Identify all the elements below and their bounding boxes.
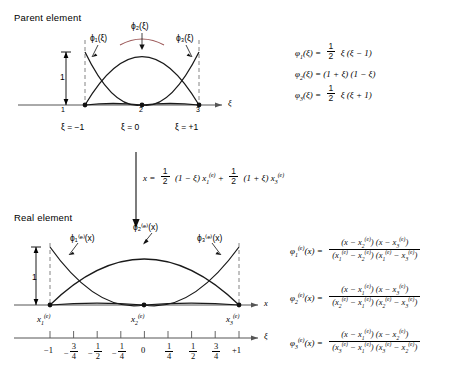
real-height-marker: 1	[32, 272, 37, 282]
parent-node-number-1: 1	[61, 106, 65, 113]
parent-node-number-3: 3	[196, 106, 200, 113]
parent-height-marker: 1	[60, 72, 65, 82]
xi-tick-label-1: −34	[64, 342, 79, 361]
real-node-label-2: x2(e)	[131, 308, 144, 326]
real-node-label-3: x3(e)	[226, 308, 239, 326]
real-axis-label-xi: ξ	[264, 331, 268, 341]
real-shape-function-2: φ2(e)(x) = (x − x1(e)) (x − x3(e)) (x2(e…	[290, 285, 422, 308]
mapping-equation: x = 12 (1 − ξ) x1(e) + 12 (1 + ξ) x3(e)	[143, 167, 284, 186]
real-axis-label-x: x	[264, 298, 268, 308]
xi-tick-label-3: −14	[112, 342, 127, 361]
parent-shape-function-2: φ2(ξ) = (1 + ξ) (1 − ξ)	[295, 63, 375, 81]
xi-tick-label-0: −1	[44, 345, 53, 355]
parent-shape-function-3: φ3(ξ) = 12 ξ (ξ + 1)	[295, 84, 372, 103]
xi-tick-label-5: 14	[164, 342, 174, 361]
parent-node-coord-2: ξ = 0	[121, 122, 139, 132]
xi-tick-label-7: 34	[211, 342, 221, 361]
parent-element-plot	[0, 0, 280, 150]
xi-tick-label-6: 12	[188, 342, 198, 361]
xi-tick-label-8: +1	[232, 345, 241, 355]
real-node-label-1: x1(e)	[37, 308, 50, 326]
parent-node-coord-3: ξ = +1	[175, 122, 198, 132]
real-shape-function-3: φ3(e)(x) = (x − x1(e)) (x − x2(e)) (x3(e…	[290, 330, 422, 353]
parent-axis-label-xi: ξ	[228, 98, 232, 108]
parent-node-number-2: 2	[139, 106, 143, 113]
parent-node-coord-1: ξ = −1	[61, 122, 84, 132]
xi-tick-label-2: −12	[88, 342, 103, 361]
xi-tick-label-4: 0	[141, 345, 145, 355]
real-shape-function-1: φ1(e)(x) = (x − x2(e)) (x − x3(e)) (x1(e…	[290, 238, 422, 261]
parent-shape-function-1: φ1(ξ) = 12 ξ (ξ − 1)	[295, 42, 372, 61]
